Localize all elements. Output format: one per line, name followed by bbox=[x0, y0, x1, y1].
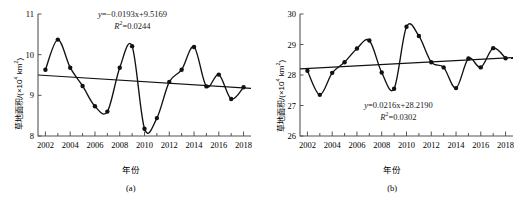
x-tick-label: 2018 bbox=[497, 140, 514, 150]
x-tick-label: 2008 bbox=[373, 140, 390, 150]
data-point-marker bbox=[354, 46, 358, 50]
chart-panel-a: 8910112002200420062008201020122014201620… bbox=[0, 0, 262, 202]
data-point-marker bbox=[80, 84, 84, 88]
data-point-marker bbox=[391, 87, 395, 91]
data-point-marker bbox=[503, 56, 507, 60]
eq-body-b: =0.0216x+28.2190 bbox=[368, 100, 433, 110]
data-point-marker bbox=[192, 45, 196, 49]
y-axis-title-b: 草地面积/(×104 km2) bbox=[275, 60, 286, 132]
x-axis-title-text-b: 年份 bbox=[383, 165, 401, 175]
data-point-marker bbox=[217, 72, 221, 76]
data-point-marker bbox=[342, 60, 346, 64]
x-axis-title-b: 年份 bbox=[262, 163, 523, 175]
x-tick-label: 2016 bbox=[472, 140, 489, 150]
x-tick-label: 2002 bbox=[298, 140, 315, 150]
y-axis-title-tail-b: km bbox=[277, 66, 286, 79]
x-tick-label: 2016 bbox=[210, 140, 227, 150]
y-axis-title-close-a: ) bbox=[15, 58, 24, 61]
y-tick-label: 29 bbox=[287, 40, 296, 50]
panel-caption-text-b: (b) bbox=[387, 183, 397, 193]
y-axis-title-tail-a: km bbox=[15, 64, 24, 77]
data-point-marker bbox=[453, 86, 457, 90]
y-tick-label: 30 bbox=[287, 9, 296, 19]
data-point-marker bbox=[478, 65, 482, 69]
data-point-marker bbox=[56, 37, 60, 41]
data-point-marker bbox=[229, 97, 233, 101]
y-axis-title-main-b: 草地面积/(×10 bbox=[277, 82, 286, 132]
trendline-equation-a: y=−0.0193x+9.5169 R2=0.0244 bbox=[60, 9, 205, 33]
x-tick-label: 2010 bbox=[398, 140, 415, 150]
trend-line bbox=[38, 75, 251, 88]
y-tick-label: 28 bbox=[287, 70, 296, 80]
data-point-marker bbox=[105, 109, 109, 113]
data-point-marker bbox=[130, 44, 134, 48]
x-tick-label: 2002 bbox=[37, 140, 54, 150]
x-tick-label: 2014 bbox=[447, 140, 465, 150]
chart-panel-b: 2627282930200220042006200820102012201420… bbox=[262, 0, 523, 202]
data-point-marker bbox=[118, 65, 122, 69]
x-axis-title-text-a: 年份 bbox=[122, 165, 140, 175]
panel-caption-text-a: (a) bbox=[126, 183, 135, 193]
data-point-marker bbox=[241, 85, 245, 89]
y-axis-title-a: 草地面积/(×104 km2) bbox=[13, 58, 24, 130]
data-point-marker bbox=[317, 93, 321, 97]
y-tick-label: 11 bbox=[26, 9, 34, 19]
x-tick-label: 2014 bbox=[186, 140, 204, 150]
equation-line-1-b: y=0.0216x+28.2190 bbox=[324, 100, 474, 111]
data-point-marker bbox=[466, 56, 470, 60]
y-axis-title-close-b: ) bbox=[277, 60, 286, 63]
data-point-marker bbox=[379, 70, 383, 74]
data-point-marker bbox=[167, 80, 171, 84]
eq-body-a: =−0.0193x+9.5169 bbox=[102, 9, 167, 19]
y-axis-title-exp-b: 4 bbox=[275, 79, 281, 82]
equation-line-1-a: y=−0.0193x+9.5169 bbox=[60, 9, 205, 20]
eq-r2-value-a: =0.0244 bbox=[122, 21, 150, 31]
data-point-marker bbox=[329, 71, 333, 75]
x-tick-label: 2006 bbox=[348, 140, 365, 150]
data-point-marker bbox=[416, 34, 420, 38]
y-axis-title-exp-a: 4 bbox=[13, 77, 19, 80]
panel-caption-b: (b) bbox=[262, 183, 523, 193]
data-point-marker bbox=[441, 65, 445, 69]
data-point-marker bbox=[68, 65, 72, 69]
equation-line-2-a: R2=0.0244 bbox=[60, 20, 205, 32]
x-tick-label: 2012 bbox=[422, 140, 439, 150]
y-tick-label: 26 bbox=[287, 131, 296, 141]
equation-line-2-b: R2=0.0302 bbox=[324, 111, 474, 123]
data-point-marker bbox=[429, 60, 433, 64]
x-tick-label: 2018 bbox=[235, 140, 252, 150]
data-point-marker bbox=[142, 126, 146, 130]
x-tick-label: 2004 bbox=[323, 140, 341, 150]
panel-caption-a: (a) bbox=[0, 183, 262, 193]
data-point-marker bbox=[404, 25, 408, 29]
x-tick-label: 2008 bbox=[111, 140, 128, 150]
data-point-marker bbox=[43, 68, 47, 72]
data-point-marker bbox=[204, 84, 208, 88]
y-tick-label: 27 bbox=[287, 101, 296, 111]
y-axis-title-exp2-b: 2 bbox=[275, 63, 281, 66]
chart-svg-b: 2627282930200220042006200820102012201420… bbox=[262, 0, 523, 160]
y-axis-title-main-a: 草地面积/(×10 bbox=[15, 80, 24, 130]
y-tick-label: 8 bbox=[30, 131, 34, 141]
eq-r2-value-b: =0.0302 bbox=[388, 112, 416, 122]
figure-container: 8910112002200420062008201020122014201620… bbox=[0, 0, 523, 202]
x-tick-label: 2004 bbox=[62, 140, 80, 150]
data-point-marker bbox=[305, 69, 309, 73]
data-point-marker bbox=[155, 116, 159, 120]
data-point-marker bbox=[93, 104, 97, 108]
x-tick-label: 2006 bbox=[86, 140, 103, 150]
data-point-marker bbox=[367, 38, 371, 42]
trendline-equation-b: y=0.0216x+28.2190 R2=0.0302 bbox=[324, 100, 474, 124]
x-tick-label: 2010 bbox=[136, 140, 153, 150]
data-point-marker bbox=[179, 68, 183, 72]
y-axis-title-exp2-a: 2 bbox=[13, 61, 19, 64]
x-axis-title-a: 年份 bbox=[0, 163, 262, 175]
x-tick-label: 2012 bbox=[161, 140, 178, 150]
y-tick-label: 10 bbox=[26, 50, 35, 60]
y-tick-label: 9 bbox=[30, 90, 34, 100]
data-point-marker bbox=[490, 46, 494, 50]
